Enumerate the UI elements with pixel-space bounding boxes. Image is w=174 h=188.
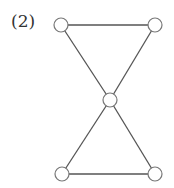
node-top-right (148, 18, 162, 32)
edge-top-left-center (61, 25, 110, 100)
node-bottom-left (55, 167, 69, 181)
bowtie-graph (0, 0, 174, 188)
node-bottom-right (148, 167, 162, 181)
edge-center-bottom-right (110, 100, 155, 174)
nodes (54, 18, 162, 181)
edge-top-right-center (110, 25, 155, 100)
edge-center-bottom-left (62, 100, 110, 174)
node-center (103, 93, 117, 107)
node-top-left (54, 18, 68, 32)
